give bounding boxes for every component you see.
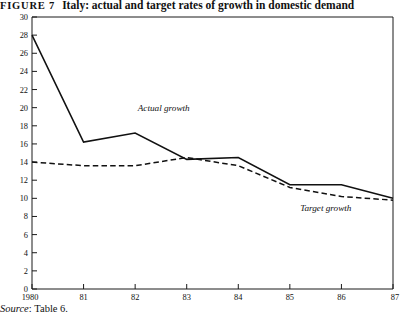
y-tick-label: 24 bbox=[20, 67, 29, 76]
y-tick-label: 16 bbox=[20, 140, 28, 149]
series-line-target-growth bbox=[32, 158, 393, 201]
chart-series bbox=[32, 35, 393, 200]
figure-title: FIGURE 7Italy: actual and target rates o… bbox=[0, 0, 405, 12]
x-tick-label: 87 bbox=[391, 293, 399, 300]
source-value: Table 6. bbox=[34, 303, 68, 314]
x-tick-label: 83 bbox=[183, 293, 191, 300]
source-label: Source bbox=[0, 303, 29, 314]
x-tick-label: 86 bbox=[337, 293, 345, 300]
y-tick-label: 20 bbox=[20, 104, 28, 113]
chart-annotations: Actual growthTarget growth bbox=[137, 103, 352, 213]
x-axis-ticks: 198081828384858687 bbox=[22, 284, 400, 300]
y-tick-label: 10 bbox=[20, 194, 28, 203]
series-line-actual-growth bbox=[32, 35, 393, 198]
y-tick-label: 22 bbox=[20, 86, 28, 95]
x-tick-label: 82 bbox=[131, 293, 139, 300]
y-tick-label: 2 bbox=[24, 267, 28, 276]
y-tick-label: 4 bbox=[24, 249, 29, 258]
y-tick-label: 30 bbox=[20, 13, 28, 22]
series-annotation: Actual growth bbox=[137, 103, 190, 113]
y-tick-label: 28 bbox=[20, 31, 28, 40]
y-tick-label: 18 bbox=[20, 122, 28, 131]
source-separator: : bbox=[29, 303, 32, 314]
y-tick-label: 12 bbox=[20, 176, 28, 185]
chart-axes bbox=[32, 17, 393, 289]
y-axis-ticks: 024681012141618202224262830 bbox=[20, 13, 37, 294]
x-tick-label: 84 bbox=[234, 293, 243, 300]
chart-plot-area: 024681012141618202224262830 198081828384… bbox=[0, 12, 405, 300]
y-tick-label: 26 bbox=[20, 49, 28, 58]
figure-number: FIGURE 7 bbox=[0, 0, 55, 11]
y-tick-label: 8 bbox=[24, 212, 28, 221]
figure-container: FIGURE 7Italy: actual and target rates o… bbox=[0, 0, 405, 316]
x-tick-label: 1980 bbox=[22, 293, 39, 300]
y-tick-label: 6 bbox=[24, 231, 28, 240]
x-tick-label: 81 bbox=[79, 293, 87, 300]
x-tick-label: 85 bbox=[286, 293, 294, 300]
series-annotation: Target growth bbox=[300, 203, 352, 213]
figure-caption: Italy: actual and target rates of growth… bbox=[62, 0, 354, 11]
line-chart: 024681012141618202224262830 198081828384… bbox=[0, 12, 405, 300]
y-tick-label: 14 bbox=[20, 158, 29, 167]
source-note: Source: Table 6. bbox=[0, 302, 68, 315]
